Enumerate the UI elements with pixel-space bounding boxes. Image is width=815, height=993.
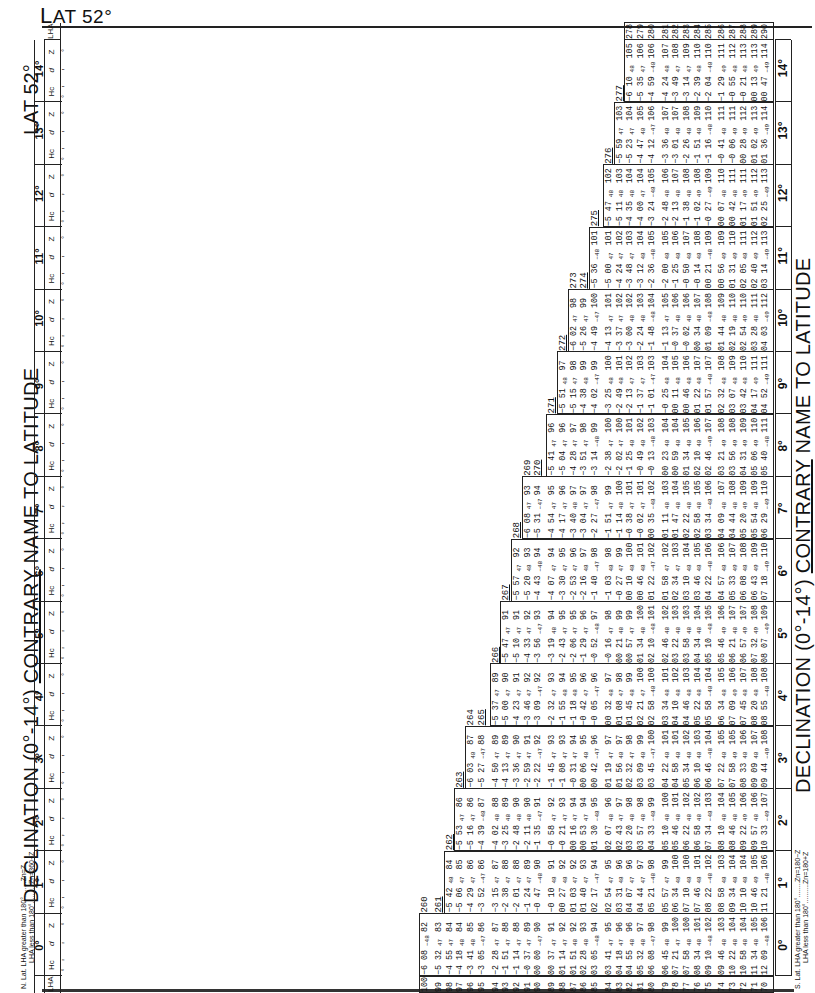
- z-value: 105: [648, 231, 657, 246]
- d-value: −48: [649, 623, 658, 634]
- d-value: 47: [561, 564, 570, 571]
- lha-step-label: 264: [467, 709, 476, 725]
- z-value: 110: [751, 418, 760, 433]
- d-value: 48: [571, 939, 580, 946]
- hc-value: 06 08: [740, 575, 749, 600]
- hc-value: −5 15: [570, 388, 579, 413]
- z-value: 102: [626, 293, 635, 308]
- sub-header-hc: Hc: [47, 461, 56, 471]
- z-value: 112: [761, 293, 770, 308]
- z-value: 103: [718, 855, 727, 870]
- hc-value: −3 25: [605, 388, 614, 413]
- d-value: −47: [593, 686, 602, 697]
- d-value: 48: [582, 564, 591, 571]
- z-value: 99: [616, 548, 625, 558]
- hc-value: −4 13: [605, 326, 614, 351]
- hc-value: −2 22: [534, 763, 543, 788]
- d-value: 48: [685, 440, 694, 447]
- z-value: 96: [548, 423, 557, 433]
- hc-value: −4 02: [492, 825, 501, 850]
- hc-value: −2 38: [605, 451, 614, 476]
- d-value: 48: [741, 564, 750, 571]
- hc-value: 09 34: [729, 887, 738, 912]
- z-value: 96: [626, 922, 635, 932]
- hc-value: −2 02: [616, 451, 625, 476]
- z-value: 107: [662, 43, 671, 58]
- hc-value: −2 36: [648, 263, 657, 288]
- z-value: 100: [591, 293, 600, 308]
- south-latitude-note: S. Lat. LHA greater than 180°........Zn=…: [794, 850, 810, 989]
- d-value: 48: [752, 814, 761, 821]
- lha-value: 91: [524, 982, 533, 992]
- d-value: 47: [493, 752, 502, 759]
- d-value: 48: [731, 627, 740, 634]
- d-value: −49: [763, 124, 772, 135]
- z-value: 104: [729, 917, 738, 932]
- d-value: −48: [479, 810, 488, 821]
- hc-value: 05 54: [751, 513, 760, 538]
- z-value: 109: [705, 231, 714, 246]
- hc-value: 02 32: [718, 388, 727, 413]
- d-value: 48: [607, 190, 616, 197]
- z-value: 111: [729, 168, 738, 183]
- hc-value: −0 50: [683, 263, 692, 288]
- sub-header-z: Z: [47, 611, 56, 616]
- lha-value: 85: [591, 982, 600, 992]
- hc-value: 00 46: [637, 575, 646, 600]
- d-value: −48: [706, 873, 715, 884]
- z-value: 99: [662, 922, 671, 932]
- lha-right-value: 289: [751, 24, 760, 39]
- d-value: 47: [674, 65, 683, 72]
- d-value: 48: [741, 252, 750, 259]
- d-value: 47: [628, 252, 637, 259]
- d-value: 49: [695, 190, 704, 197]
- z-value: 103: [616, 106, 625, 121]
- d-value: 48: [695, 876, 704, 883]
- unit-mark: °: [61, 173, 70, 177]
- d-value: 48: [504, 814, 513, 821]
- d-value: 49: [720, 65, 729, 72]
- sub-header-z: Z: [47, 549, 56, 554]
- z-value: 97: [570, 423, 579, 433]
- z-value: 102: [705, 855, 714, 870]
- hc-value: −1 16: [705, 139, 714, 164]
- lha-value: 96: [467, 982, 476, 992]
- d-value: 47: [607, 502, 616, 509]
- z-value: 104: [672, 480, 681, 495]
- hc-value: 07 34: [705, 825, 714, 850]
- d-value: 47: [582, 627, 591, 634]
- lha-step-label: 265: [478, 709, 487, 725]
- sub-header-z: Z: [47, 174, 56, 179]
- hc-value: 03 46: [694, 575, 703, 600]
- hc-value: 03 57: [637, 825, 646, 850]
- z-value: 100: [626, 543, 635, 558]
- unit-mark: ': [61, 754, 70, 758]
- z-value: 107: [672, 106, 681, 121]
- d-value: −48: [649, 186, 658, 197]
- lha-step-label: 274: [580, 272, 589, 288]
- z-value: 102: [694, 792, 703, 807]
- footer-divider: [775, 725, 791, 726]
- z-value: 105: [694, 543, 703, 558]
- hc-value: −2 24: [637, 326, 646, 351]
- z-value: 110: [705, 43, 714, 58]
- z-value: 109: [761, 605, 770, 620]
- d-value: 48: [741, 752, 750, 759]
- d-value: 48: [674, 190, 683, 197]
- unit-mark: ': [61, 379, 70, 383]
- z-value: 86: [467, 860, 476, 870]
- sub-header-d: d: [47, 505, 56, 509]
- z-value: 105: [662, 293, 671, 308]
- hc-value: 07 32: [751, 638, 760, 663]
- z-value: 102: [662, 543, 671, 558]
- d-value: 47: [617, 939, 626, 946]
- lha-value: 71: [751, 982, 760, 992]
- hc-value: −2 13: [626, 388, 635, 413]
- z-value: 101: [591, 231, 600, 246]
- hc-value: 10 58: [740, 950, 749, 975]
- d-value: 47: [525, 876, 534, 883]
- z-value: 91: [524, 735, 533, 745]
- z-value: 104: [662, 418, 671, 433]
- hc-value: −5 26: [580, 326, 589, 351]
- z-value: 104: [718, 792, 727, 807]
